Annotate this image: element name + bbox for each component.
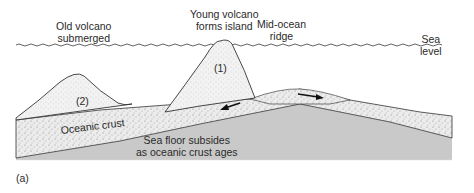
marker-2: (2) [76, 95, 89, 107]
label-line: forms island [190, 20, 259, 32]
ridge-rubble [250, 89, 350, 104]
marker-1: (1) [214, 62, 227, 74]
label-sea-floor-subsides: Sea floor subsides as oceanic crust ages [136, 134, 238, 158]
label-line: Sea [420, 33, 442, 45]
label-line: Mid-ocean [257, 18, 306, 30]
label-line: ridge [257, 30, 306, 42]
label-line: submerged [56, 32, 111, 44]
label-old-volcano: Old volcano submerged [56, 20, 111, 44]
label-line: Sea floor subsides [136, 134, 238, 146]
label-line: level [420, 45, 442, 57]
label-line: Young volcano [190, 8, 259, 20]
panel-label: (a) [16, 172, 29, 184]
label-mid-ocean-ridge: Mid-ocean ridge [257, 18, 306, 42]
label-line: as oceanic crust ages [136, 146, 238, 158]
label-line: Old volcano [56, 20, 111, 32]
label-young-volcano: Young volcano forms island [190, 8, 259, 32]
label-sea-level: Sea level [420, 33, 442, 57]
